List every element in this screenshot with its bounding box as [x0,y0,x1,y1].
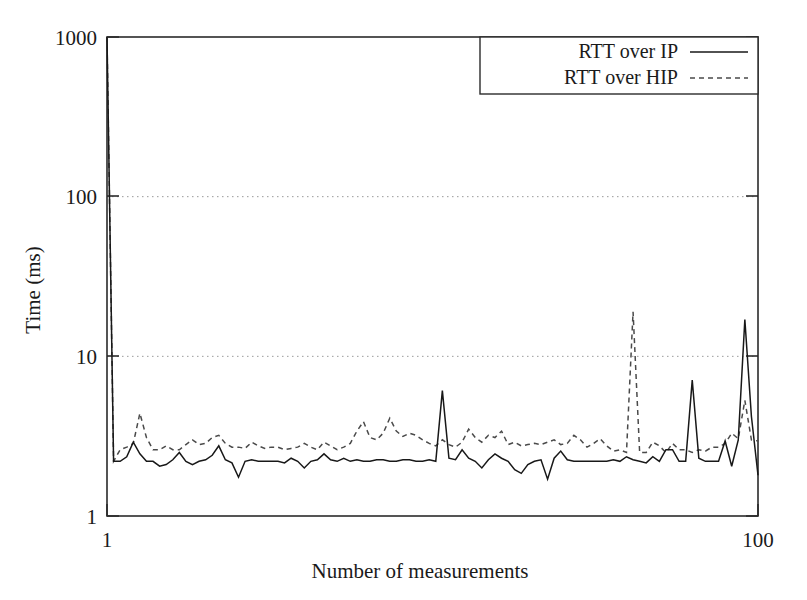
y-axis-title: Time (ms) [21,246,45,333]
x-axis-title: Number of measurements [312,559,529,583]
xtick-label-100: 100 [742,528,774,552]
legend-label-rtt-over-ip: RTT over IP [578,40,678,62]
ytick-label-10: 10 [76,345,97,369]
legend: RTT over IP RTT over HIP [480,37,758,94]
xtick-label-1: 1 [102,528,113,552]
rtt-line-chart: 1000 100 10 1 1 100 Time (ms) Number of … [0,0,807,600]
ytick-label-100: 100 [66,185,98,209]
legend-label-rtt-over-hip: RTT over HIP [564,66,678,88]
chart-page: 1000 100 10 1 1 100 Time (ms) Number of … [0,0,807,600]
ytick-label-1000: 1000 [55,26,97,50]
ytick-label-1: 1 [87,505,98,529]
